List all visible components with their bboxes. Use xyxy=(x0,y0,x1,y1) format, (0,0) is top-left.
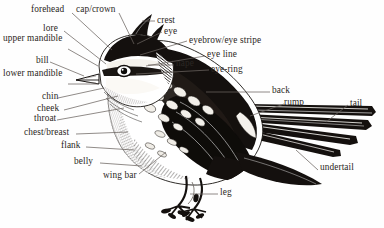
label-cap-crown: cap/crown xyxy=(76,5,116,15)
label-bill: bill xyxy=(36,56,49,66)
label-crest: crest xyxy=(157,16,175,26)
label-undertail: undertail xyxy=(320,163,354,173)
label-tail: tail xyxy=(350,99,362,109)
label-forehead: forehead xyxy=(31,5,64,15)
label-eyebrow-eye-stripe: eyebrow/eye stripe xyxy=(189,36,261,46)
label-leg: leg xyxy=(220,188,232,198)
eye-marking xyxy=(117,65,132,76)
label-eye-line: eye line xyxy=(207,50,237,60)
label-throat: throat xyxy=(34,114,56,124)
label-upper-mandible: upper mandible xyxy=(3,34,67,44)
bird-anatomy-figure: forehead cap/crown crest eye lore eyebro… xyxy=(0,0,384,228)
label-back: back xyxy=(272,86,290,96)
leader-chin xyxy=(58,88,104,98)
leader-forehead xyxy=(72,13,112,50)
label-chest-breast: chest/breast xyxy=(24,128,69,138)
label-lower-mandible: lower mandible xyxy=(3,69,67,79)
leader-undertail xyxy=(296,150,318,170)
leader-upper-mandible xyxy=(68,49,98,66)
label-rump: rump xyxy=(284,98,304,108)
label-nape: nape xyxy=(176,59,194,69)
label-eye: eye xyxy=(164,27,177,37)
label-flank: flank xyxy=(61,141,81,151)
label-wing-bar: wing bar xyxy=(103,171,137,181)
bill-shape xyxy=(76,74,99,84)
label-chin: chin xyxy=(42,92,58,102)
label-eye-ring: eye-ring xyxy=(211,65,243,75)
label-belly: belly xyxy=(74,157,93,167)
